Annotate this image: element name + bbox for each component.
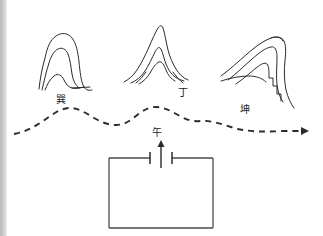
- label-wu: 午: [152, 128, 162, 138]
- right-mountain-middle-ridge: [228, 47, 283, 102]
- label-ding: 丁: [178, 88, 188, 98]
- center-mountain-inner-ridge: [139, 62, 175, 84]
- label-kun: 坤: [240, 105, 250, 115]
- diagram-canvas: [0, 0, 323, 236]
- center-mountain-right-spur: [173, 72, 183, 83]
- site-plot-group: [109, 140, 213, 228]
- feng-shui-diagram: 巽 丁 坤 午: [0, 0, 323, 236]
- left-mountain-foot: [72, 87, 90, 88]
- right-mountain-inner-ridge: [236, 63, 281, 101]
- right-mountain: [221, 37, 294, 108]
- orientation-arrow-head: [158, 140, 165, 147]
- center-mountain-outer-ridge: [124, 26, 188, 82]
- label-xun: 巽: [56, 95, 66, 105]
- left-mountain: [39, 34, 92, 91]
- center-mountain-middle-ridge: [131, 48, 184, 83]
- right-mountain-outer-ridge: [221, 37, 294, 108]
- right-mountain-lower-flank: [221, 76, 266, 82]
- center-mountain: [124, 26, 188, 84]
- center-mountain-left-spur: [136, 72, 146, 83]
- dragon-vein-arrowhead: [301, 127, 309, 135]
